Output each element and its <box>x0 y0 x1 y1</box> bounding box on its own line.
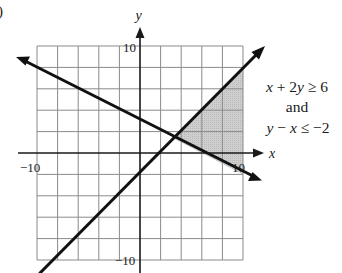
x-tick-10: 10 <box>232 160 245 175</box>
y-tick-10: 10 <box>123 40 136 55</box>
x-axis-arrow-icon <box>253 149 264 158</box>
y-axis <box>136 27 145 273</box>
conjunction-and: and <box>286 98 309 115</box>
inequality-annotation: x + 2y ≥ 6 and y − x ≤ −2 <box>264 78 329 136</box>
inequality-graph: ) <box>0 0 342 273</box>
partial-part-label: ) <box>0 3 3 20</box>
y-axis-arrow-icon <box>136 27 145 38</box>
x-axis-label: x <box>268 146 276 161</box>
shaded-solution-region <box>174 67 243 174</box>
inequality-2: y − x ≤ −2 <box>264 119 329 136</box>
y-axis-label: y <box>134 8 143 23</box>
inequality-1: x + 2y ≥ 6 <box>265 78 328 95</box>
y-tick-neg-10: −10 <box>115 253 135 268</box>
x-tick-neg-10: −10 <box>20 160 40 175</box>
